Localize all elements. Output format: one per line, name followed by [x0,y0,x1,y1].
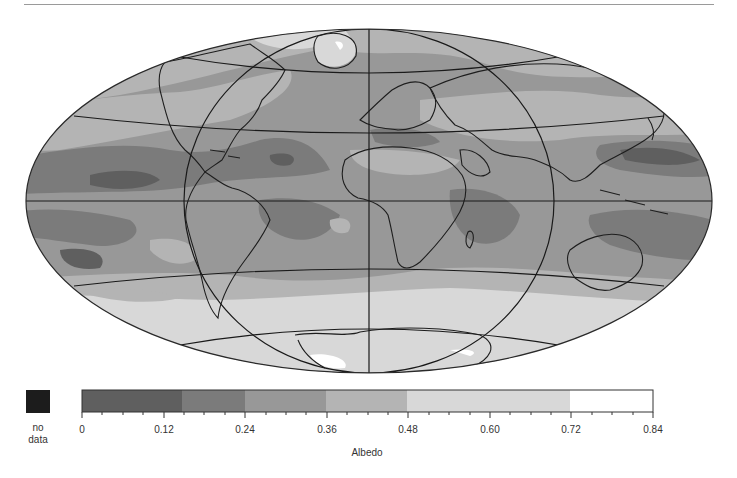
colorbar-tick-1: 0.12 [154,424,173,435]
colorbar [0,0,737,478]
colorbar-axis-label: Albedo [351,447,382,458]
colorbar-tick-3: 0.36 [317,424,336,435]
colorbar-tick-5: 0.60 [480,424,499,435]
colorbar-tick-4: 0.48 [398,424,417,435]
colorbar-tick-6: 0.72 [561,424,580,435]
colorbar-tick-0: 0 [79,424,85,435]
colorbar-tick-7: 0.84 [643,424,662,435]
colorbar-tick-2: 0.24 [235,424,254,435]
